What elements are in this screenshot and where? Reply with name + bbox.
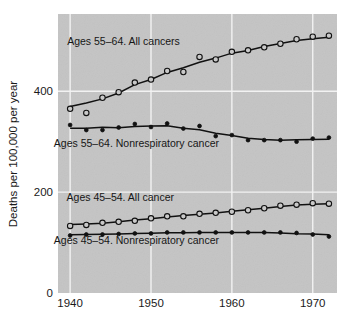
data-point xyxy=(213,57,218,62)
data-point xyxy=(278,41,283,46)
ann-45-54-all: Ages 45–54. All cancer xyxy=(67,191,175,203)
data-point xyxy=(84,110,89,115)
y-tick-label-0: 0 xyxy=(47,287,53,299)
data-point xyxy=(84,222,89,227)
data-point xyxy=(245,48,250,53)
data-point xyxy=(327,235,331,239)
data-point xyxy=(327,136,331,140)
data-point xyxy=(100,95,105,100)
data-point xyxy=(294,37,299,42)
data-point xyxy=(181,69,186,74)
data-point xyxy=(262,231,266,235)
x-tick-label-1950: 1950 xyxy=(138,297,164,309)
data-point xyxy=(149,125,153,129)
data-point xyxy=(311,137,315,141)
data-point xyxy=(148,216,153,221)
data-point xyxy=(181,127,185,131)
data-point xyxy=(310,34,315,39)
data-point xyxy=(68,123,72,127)
data-point xyxy=(117,126,121,130)
data-point xyxy=(326,33,331,38)
data-point xyxy=(213,210,218,215)
data-point xyxy=(230,133,234,137)
data-point xyxy=(295,140,299,144)
chart-canvas: 19401950196019700200400 Ages 55–64. All … xyxy=(0,0,353,323)
data-point xyxy=(278,231,282,235)
data-point xyxy=(246,138,250,142)
y-axis-title-text: Deaths per 100,000 per year xyxy=(7,81,19,228)
y-tick-label-400: 400 xyxy=(34,85,53,97)
data-point xyxy=(278,203,283,208)
data-point xyxy=(198,124,202,128)
data-point xyxy=(67,106,72,111)
data-point xyxy=(197,211,202,216)
data-point xyxy=(181,214,186,219)
data-point xyxy=(262,138,266,142)
x-tick-label-1960: 1960 xyxy=(219,297,245,309)
data-point xyxy=(245,208,250,213)
data-point xyxy=(229,49,234,54)
data-point xyxy=(230,231,234,235)
chart-figure: 19401950196019700200400 Ages 55–64. All … xyxy=(0,0,353,323)
y-tick-label-200: 200 xyxy=(34,186,53,198)
data-point xyxy=(229,209,234,214)
data-point xyxy=(294,202,299,207)
data-point xyxy=(164,68,169,73)
data-point xyxy=(262,45,267,50)
ann-45-54-nonresp: Ages 45–54. Nonrespiratory cancer xyxy=(54,234,220,246)
data-point xyxy=(311,233,315,237)
data-point xyxy=(101,128,105,132)
data-point xyxy=(165,122,169,126)
data-point xyxy=(278,138,282,142)
data-point xyxy=(326,201,331,206)
data-point xyxy=(164,214,169,219)
data-point xyxy=(132,218,137,223)
data-point xyxy=(67,223,72,228)
y-axis-title: Deaths per 100,000 per year xyxy=(7,81,19,228)
ann-55-64-nonresp: Ages 55–64. Nonrespiratory cancer xyxy=(54,137,220,149)
data-point xyxy=(132,80,137,85)
ann-55-64-all: Ages 55–64. All cancers xyxy=(67,35,180,47)
data-point xyxy=(84,128,88,132)
data-point xyxy=(295,231,299,235)
data-point xyxy=(310,201,315,206)
data-point xyxy=(197,54,202,59)
data-point xyxy=(116,90,121,95)
data-point xyxy=(100,220,105,225)
data-point xyxy=(262,206,267,211)
x-tick-label-1940: 1940 xyxy=(57,297,83,309)
data-point xyxy=(148,77,153,82)
data-point xyxy=(116,219,121,224)
data-point xyxy=(246,231,250,235)
data-point xyxy=(133,122,137,126)
x-tick-label-1970: 1970 xyxy=(300,297,326,309)
